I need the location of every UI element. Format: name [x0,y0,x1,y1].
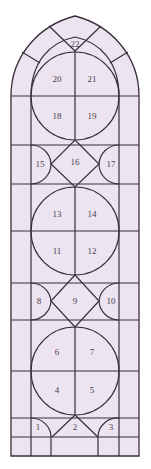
panel-label: 12 [88,246,97,256]
panel-label: 22 [71,39,80,49]
panel-label: 19 [88,111,98,121]
panel-label: 16 [71,157,81,167]
panel-label: 17 [107,159,117,169]
panel-label: 6 [55,347,60,357]
panel-label: 4 [55,385,60,395]
panel-label: 20 [53,74,63,84]
panel-label: 21 [88,74,97,84]
panel-label: 2 [73,422,78,432]
panel-label: 5 [90,385,95,395]
panel-label: 18 [53,111,63,121]
panel-label: 13 [53,209,63,219]
panel-label: 7 [90,347,95,357]
panel-label: 1 [36,422,41,432]
panel-label: 15 [36,159,46,169]
panel-label: 14 [88,209,98,219]
panel-label: 3 [109,422,114,432]
panel-label: 10 [107,296,117,306]
panel-label: 8 [37,296,42,306]
panel-label: 9 [73,296,78,306]
panel-label: 11 [53,246,62,256]
window-diagram: 1 2 3 4 5 6 7 8 9 10 11 12 13 14 15 16 1… [0,0,151,469]
